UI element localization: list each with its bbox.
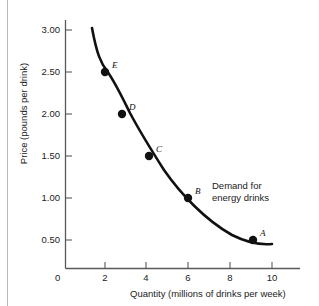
data-point-c [145,152,153,160]
y-tick-label-2-00: 2.00 [26,108,60,119]
y-tick-label-2-50: 2.50 [26,66,60,77]
x-tick-label-8: 8 [219,272,241,283]
x-tick-label-6: 6 [177,272,199,283]
y-axis-ticks [66,30,73,240]
curve-annotation-line-2: energy drinks [212,192,269,204]
y-tick-label-0-50: 0.50 [26,234,60,245]
data-point-b [184,194,192,202]
data-point-d [118,110,126,118]
origin-tick-label: 0 [55,272,60,283]
y-axis-title: Price (pounds per drink) [18,49,29,179]
demand-curve-figure: 3.00 2.50 2.00 1.50 1.00 0.50 0 2 4 6 8 … [0,0,319,306]
y-tick-label-1-50: 1.50 [26,150,60,161]
curve-annotation-line-1: Demand for [212,180,269,192]
demand-curve-line [92,28,272,244]
x-axis-title: Quantity (millions of drinks per week) [130,288,286,299]
x-tick-label-4: 4 [135,272,157,283]
x-tick-label-2: 2 [94,272,116,283]
data-point-a [249,236,257,244]
point-label-a: A [260,228,266,238]
data-point-markers [101,68,257,244]
point-label-c: C [156,144,162,154]
point-label-d: D [129,102,136,112]
y-tick-label-3-00: 3.00 [26,24,60,35]
x-tick-label-10: 10 [261,272,283,283]
point-label-b: B [195,186,201,196]
curve-annotation: Demand for energy drinks [212,180,269,203]
y-tick-label-1-00: 1.00 [26,192,60,203]
x-axis-ticks [105,262,272,269]
data-point-e [101,68,109,76]
point-label-e: E [112,60,118,70]
